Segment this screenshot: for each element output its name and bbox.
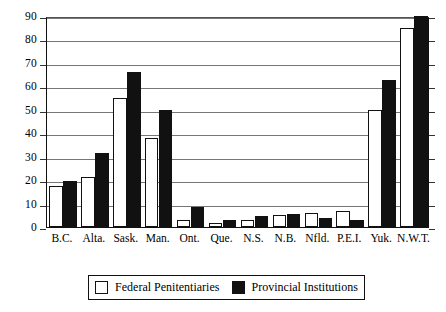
x-axis-label-man: Man. <box>142 231 174 245</box>
x-axis-label-nb: N.B. <box>269 231 301 245</box>
bar-provincial-que <box>223 220 237 227</box>
x-axis-label-nwt: N.W.T. <box>397 231 429 245</box>
y-axis-tick-label: 80 <box>0 34 37 46</box>
x-axis-labels: B.C.Alta.Sask.Man.Ont.Que.N.S.N.B.Nfld.P… <box>46 231 429 249</box>
y-axis-tick <box>40 41 46 42</box>
y-axis-tick <box>40 229 46 230</box>
bar-federal-que <box>209 223 223 227</box>
bar-federal-yuk <box>368 110 382 227</box>
y-axis-tick-right <box>429 41 435 42</box>
x-axis-label-pei: P.E.I. <box>333 231 365 245</box>
bar-chart: 0102030405060708090 B.C.Alta.Sask.Man.On… <box>0 0 446 312</box>
bar-federal-ont <box>177 220 191 227</box>
x-axis-label-bc: B.C. <box>46 231 78 245</box>
bars-layer <box>47 18 428 227</box>
y-axis-tick <box>40 206 46 207</box>
bar-provincial-nfld <box>319 218 333 227</box>
y-axis-tick-label: 10 <box>0 199 37 211</box>
bar-provincial-pei <box>350 220 364 227</box>
legend-label-provincial: Provincial Institutions <box>252 281 358 294</box>
y-axis-tick-label: 30 <box>0 152 37 164</box>
bar-provincial-nwt <box>414 16 428 227</box>
y-axis-tick-right <box>429 206 435 207</box>
y-axis-tick <box>40 18 46 19</box>
legend-swatch-black-square-icon <box>232 281 245 294</box>
legend-entry-provincial: Provincial Institutions <box>232 281 358 294</box>
y-axis-tick-right <box>429 159 435 160</box>
legend-entry-federal: Federal Penitentiaries <box>95 281 219 294</box>
y-axis-tick-label: 90 <box>0 11 37 23</box>
bar-provincial-yuk <box>382 80 396 227</box>
y-axis-tick <box>40 159 46 160</box>
bar-federal-man <box>145 138 159 227</box>
y-axis-tick-label: 0 <box>0 222 37 234</box>
bar-provincial-bc <box>63 181 77 227</box>
y-axis-tick-label: 20 <box>0 175 37 187</box>
y-axis-tick-right <box>429 65 435 66</box>
x-axis-label-yuk: Yuk. <box>365 231 397 245</box>
y-axis-tick-right <box>429 112 435 113</box>
y-axis-tick-right <box>429 88 435 89</box>
y-axis-tick <box>40 182 46 183</box>
legend-swatch-white-square-icon <box>95 281 108 294</box>
y-axis-tick <box>40 135 46 136</box>
y-axis-tick-label: 50 <box>0 105 37 117</box>
y-axis-tick-label: 40 <box>0 128 37 140</box>
plot-area <box>46 17 429 228</box>
bar-federal-nb <box>273 215 287 227</box>
y-axis-tick <box>40 88 46 89</box>
bar-provincial-alta <box>95 153 109 227</box>
y-axis-tick-right <box>429 229 435 230</box>
bar-federal-sask <box>113 98 127 227</box>
x-axis-label-ns: N.S. <box>238 231 270 245</box>
y-axis-tick <box>40 65 46 66</box>
bar-federal-pei <box>336 211 350 227</box>
x-axis-label-sask: Sask. <box>110 231 142 245</box>
y-axis-tick-right <box>429 18 435 19</box>
bar-federal-nfld <box>305 213 319 227</box>
bar-provincial-ns <box>255 216 269 227</box>
chart-legend: Federal Penitentiaries Provincial Instit… <box>88 275 365 300</box>
y-axis-tick-label: 60 <box>0 81 37 93</box>
bar-provincial-nb <box>287 214 301 227</box>
y-axis-tick-label: 70 <box>0 58 37 70</box>
bar-federal-bc <box>49 186 63 227</box>
x-axis-label-alta: Alta. <box>78 231 110 245</box>
legend-label-federal: Federal Penitentiaries <box>115 281 219 294</box>
y-axis-tick-right <box>429 182 435 183</box>
x-axis-label-nfld: Nfld. <box>301 231 333 245</box>
y-axis-tick <box>40 112 46 113</box>
x-axis-label-que: Que. <box>206 231 238 245</box>
x-axis-label-ont: Ont. <box>174 231 206 245</box>
bar-federal-ns <box>241 220 255 227</box>
bar-federal-nwt <box>400 28 414 227</box>
bar-provincial-ont <box>191 207 205 227</box>
bar-federal-alta <box>81 177 95 227</box>
bar-provincial-sask <box>127 72 141 227</box>
y-axis-tick-right <box>429 135 435 136</box>
bar-provincial-man <box>159 110 173 227</box>
